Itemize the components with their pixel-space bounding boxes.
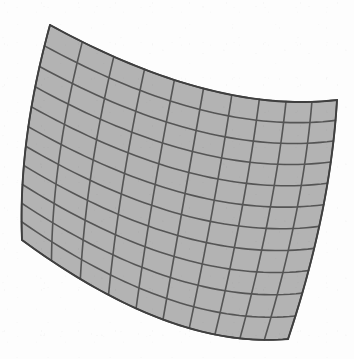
mesh-cell (310, 100, 337, 122)
mesh-cell (281, 122, 310, 143)
mesh-cell (246, 162, 277, 185)
mesh-cell (253, 120, 283, 143)
mesh-cell (305, 141, 334, 164)
mesh-cell (274, 164, 304, 185)
figure-root: Distorted grid mesh (0, 0, 354, 359)
mesh-cell (256, 99, 286, 122)
mesh-cell (308, 120, 336, 143)
mesh-cell-faces (22, 25, 337, 340)
mesh-cell (243, 183, 275, 207)
mesh-cell (234, 226, 266, 250)
mesh-cell (284, 102, 312, 123)
mesh-cell (239, 205, 271, 229)
mesh-cell (250, 141, 281, 164)
mesh-cell (278, 143, 308, 164)
mesh-cell (301, 162, 331, 185)
mesh-cell (270, 185, 301, 206)
mesh-cell (266, 207, 297, 229)
mesh-diagram: Distorted grid mesh (0, 0, 354, 359)
